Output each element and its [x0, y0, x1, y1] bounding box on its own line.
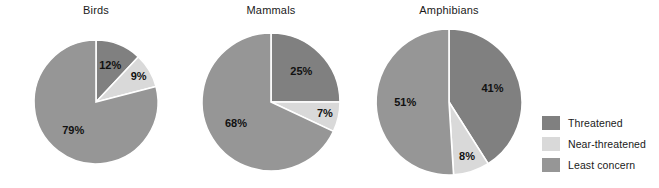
pie-slice-label: 7% — [317, 107, 333, 119]
pie-slice-label: 79% — [62, 124, 84, 136]
pie-slice-label: 41% — [481, 82, 503, 94]
legend-label-threatened: Threatened — [568, 117, 623, 129]
pie-slice-label: 8% — [459, 150, 475, 162]
pie-chart-figure: Birds 12%9%79% Mammals 25%7%68% Amphibia… — [0, 0, 659, 188]
pie-slice-label: 25% — [290, 65, 312, 77]
legend-item-near-threatened: Near-threatened — [542, 133, 658, 154]
pie-panel-birds: Birds 12%9%79% — [20, 0, 172, 188]
legend-label-least-concern: Least concern — [568, 159, 635, 171]
legend-swatch-least-concern — [542, 158, 560, 172]
pie-slice-label: 51% — [394, 96, 416, 108]
pie-panel-mammals: Mammals 25%7%68% — [195, 0, 347, 188]
pie-slice-label: 9% — [131, 70, 147, 82]
legend-item-least-concern: Least concern — [542, 154, 658, 175]
pie-slice-label: 68% — [225, 117, 247, 129]
legend-label-near-threatened: Near-threatened — [568, 138, 646, 150]
legend-swatch-threatened — [542, 116, 560, 130]
pie-svg-amphibians: 41%8%51% — [372, 0, 526, 188]
pie-panel-amphibians: Amphibians 41%8%51% — [372, 0, 526, 188]
legend-item-threatened: Threatened — [542, 112, 658, 133]
pie-svg-birds: 12%9%79% — [20, 0, 172, 188]
legend-swatch-near-threatened — [542, 137, 560, 151]
pie-slice-label: 12% — [99, 59, 121, 71]
pie-svg-mammals: 25%7%68% — [195, 0, 347, 188]
legend: Threatened Near-threatened Least concern — [542, 112, 658, 175]
